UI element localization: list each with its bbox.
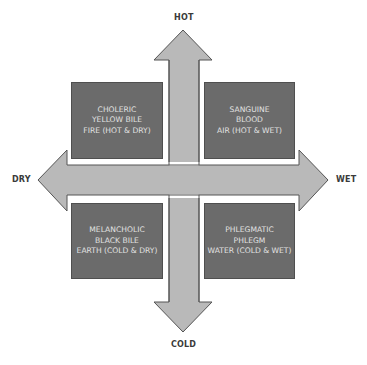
axis-label-hot: HOT [174,13,194,22]
axis-label-wet: WET [336,175,356,184]
axis-label-cold: COLD [171,340,196,349]
axis-label-dry: DRY [12,175,31,184]
axis-arrows [0,0,367,365]
humors-diagram: CHOLERIC YELLOW BILE FIRE (HOT & DRY) SA… [0,0,367,365]
